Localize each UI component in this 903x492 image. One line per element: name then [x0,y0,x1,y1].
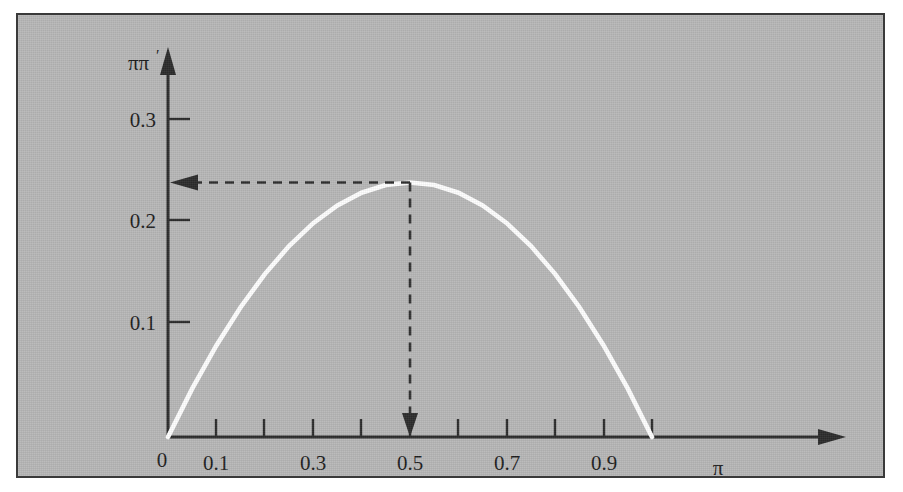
horizontal-guide-arrowhead [170,175,198,191]
x-axis-arrowhead [818,429,846,445]
y-axis-arrowhead [160,47,176,75]
x-tick-label-0.7: 0.7 [494,451,520,475]
y-tick-label-0.1: 0.1 [130,311,156,335]
plot-canvas: 0 0.1 0.3 0.5 0.7 0.9 0.1 0.2 0.3 π ππ ′ [18,15,885,478]
figure-root: 0 0.1 0.3 0.5 0.7 0.9 0.1 0.2 0.3 π ππ ′ [0,0,903,492]
maximum-guides [170,175,418,438]
y-tick-label-0.3: 0.3 [130,108,156,132]
x-tick-label-0.5: 0.5 [397,451,423,475]
x-axis-ticks [216,419,652,437]
plot-panel: 0 0.1 0.3 0.5 0.7 0.9 0.1 0.2 0.3 π ππ ′ [16,13,885,478]
y-axis-title-base: ππ [128,51,150,75]
x-tick-label-0.3: 0.3 [300,451,326,475]
y-axis-ticks [168,119,190,322]
y-axis-title: ππ ′ [128,47,160,75]
y-axis [160,47,176,437]
x-axis-title: π [713,456,724,478]
x-tick-labels: 0 0.1 0.3 0.5 0.7 0.9 [157,448,617,475]
x-tick-label-0.1: 0.1 [203,451,229,475]
x-tick-label-0: 0 [157,448,168,472]
vertical-guide-arrowhead [402,413,418,437]
x-tick-label-0.9: 0.9 [591,451,617,475]
y-tick-label-0.2: 0.2 [130,209,156,233]
y-axis-title-prime: ′ [156,47,160,64]
y-tick-labels: 0.1 0.2 0.3 [130,108,156,335]
